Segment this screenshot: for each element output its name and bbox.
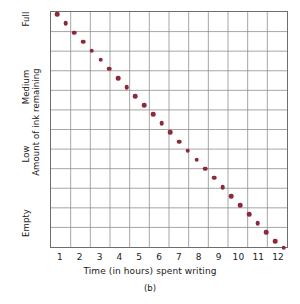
data-point [255, 221, 260, 226]
data-point [63, 21, 68, 26]
data-point [212, 176, 217, 181]
y-axis-title: Amount of ink remaining [31, 22, 41, 222]
data-point [220, 185, 225, 190]
data-points-layer [51, 12, 287, 247]
data-point [203, 167, 208, 172]
data-point [81, 39, 86, 44]
y-axis-tick-label: Medium [21, 64, 31, 110]
x-axis-tick-label: 12 [266, 252, 290, 262]
data-point [168, 130, 173, 135]
y-axis-tick-label: Low [21, 131, 31, 177]
data-point [177, 139, 182, 144]
data-point [186, 148, 191, 153]
plot-area [50, 11, 288, 248]
data-point [229, 194, 234, 199]
figure-caption: (b) [0, 283, 300, 293]
data-point [90, 48, 95, 53]
data-point [124, 85, 129, 90]
data-point [194, 157, 199, 162]
data-point [142, 103, 147, 108]
data-point [133, 94, 138, 99]
data-point [264, 230, 269, 235]
data-point [98, 57, 103, 62]
data-point [247, 212, 252, 217]
scatter-plot-figure: Amount of ink remaining FullMediumLowEmp… [0, 0, 300, 304]
data-point [282, 246, 287, 251]
data-point [116, 76, 121, 81]
data-point [238, 203, 243, 208]
x-axis-title: Time (in hours) spent writing [0, 266, 300, 276]
data-point [72, 30, 77, 35]
data-point [273, 239, 278, 244]
y-axis-tick-label: Empty [21, 200, 31, 246]
y-axis-tick-label: Full [21, 0, 31, 42]
data-point [55, 12, 60, 17]
data-point [159, 121, 164, 126]
data-point [151, 112, 156, 117]
data-point [107, 67, 112, 72]
